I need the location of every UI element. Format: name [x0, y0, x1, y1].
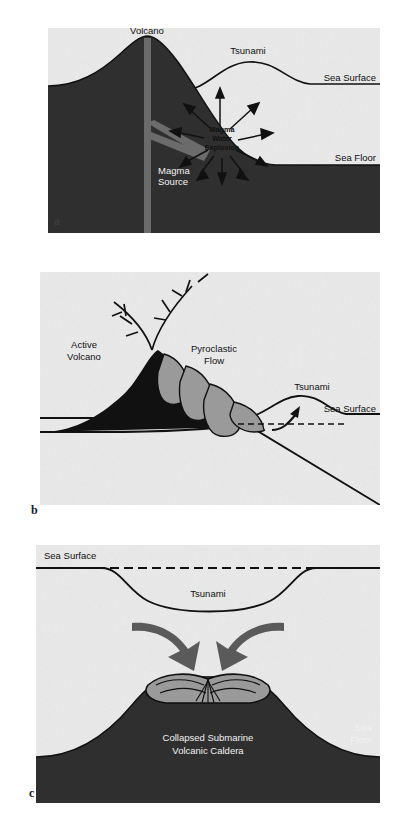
panel-letter-b: b: [31, 503, 38, 518]
sea-floor-label-a: Sea Floor: [335, 152, 376, 163]
panel-c-caldera-collapse: Sea Surface Tsunami Collapsed SubmarineV…: [36, 545, 380, 803]
panel-b-pyroclastic-flow: ActiveVolcano PyroclasticFlow Tsunami Se…: [40, 272, 380, 505]
figure-page: Magma Water Explosion Volcano Tsunami Se…: [0, 0, 414, 830]
explosion-label-line2: Water: [212, 134, 232, 143]
tsunami-label-c: Tsunami: [190, 588, 225, 599]
explosion-label-line1: Magma: [210, 125, 236, 134]
panel-letter-a: a: [54, 214, 60, 229]
magma-source-label: MagmaSource: [158, 165, 190, 187]
tsunami-label-a: Tsunami: [230, 45, 265, 56]
active-volcano-label: ActiveVolcano: [67, 339, 101, 362]
sea-surface-label-c: Sea Surface: [44, 550, 96, 561]
panel-a-magma-water-explosion: Magma Water Explosion Volcano Tsunami Se…: [48, 28, 380, 233]
panel-letter-c: c: [29, 786, 34, 801]
explosion-label-line3: Explosion: [205, 143, 239, 152]
sea-surface-label-a: Sea Surface: [324, 72, 376, 83]
sea-surface-label-b: Sea Surface: [324, 403, 376, 414]
volcano-label: Volcano: [130, 28, 164, 36]
tsunami-label-b: Tsunami: [294, 381, 329, 392]
